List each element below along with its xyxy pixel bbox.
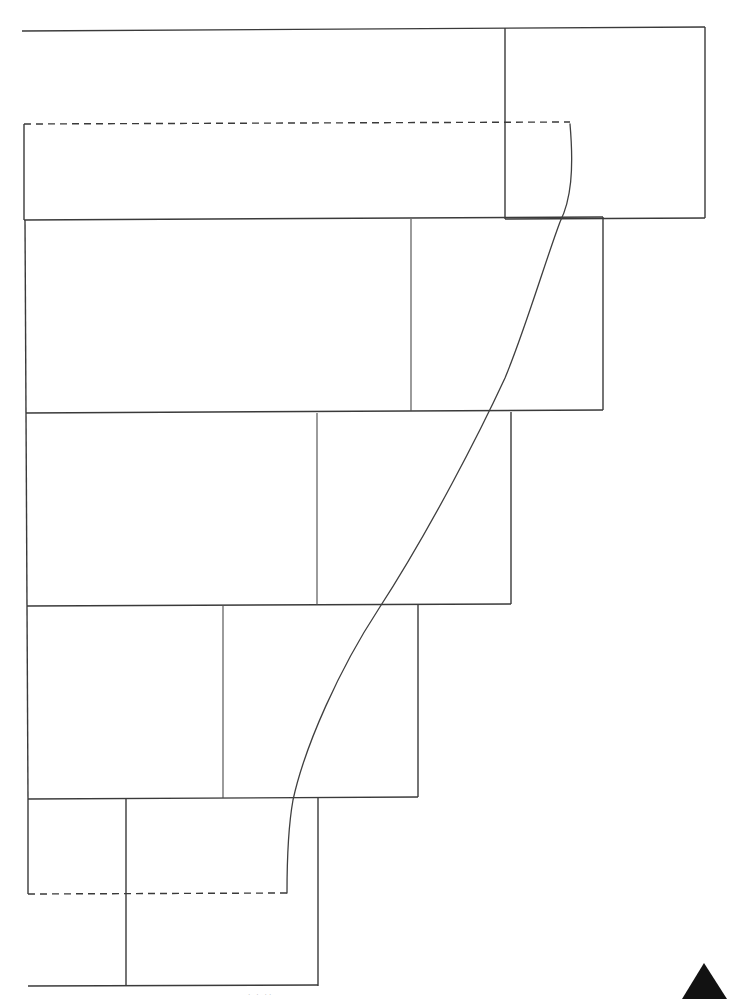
band-4-left-edge: [27, 606, 28, 799]
band-1: [24, 122, 603, 220]
band-3-bottom-edge: [27, 604, 511, 606]
band-1-dashed-top: [24, 122, 570, 124]
band-2-bottom-edge: [26, 410, 603, 413]
band-6-bottom-edge: [28, 985, 318, 986]
band-5-dashed-bottom: [28, 893, 287, 894]
scanned-page: Scanned line drawing Nested stepped rect…: [0, 0, 731, 999]
band-5: [28, 798, 318, 986]
line-drawing-canvas: · · ··: [0, 0, 731, 999]
top-rule: [22, 27, 705, 31]
band-2: [25, 217, 603, 413]
panel-top-right: [505, 27, 705, 219]
band-3-left-edge: [26, 413, 27, 606]
footer-faint-marks: · · ··: [248, 991, 273, 998]
crossing-curve: [287, 124, 572, 893]
band-4: [27, 605, 418, 799]
band-2-left-edge: [25, 220, 26, 413]
corner-triangle-icon: [682, 963, 727, 999]
panel-top-right-bottom-edge: [505, 218, 705, 219]
